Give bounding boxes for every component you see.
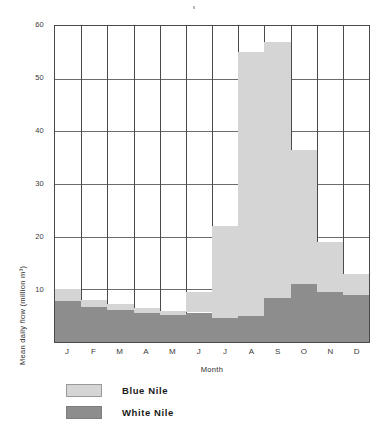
bar-segment-white-nile xyxy=(212,318,238,342)
bar-group-march[interactable] xyxy=(107,26,133,342)
bar-segment-white-nile xyxy=(160,315,186,342)
x-tick-label-august: A xyxy=(238,347,264,356)
chart-figure: 102030405060 Mean daily flow (million m³… xyxy=(0,0,390,435)
legend-swatch-white-nile xyxy=(66,406,102,419)
x-tick-label-february: F xyxy=(80,347,106,356)
bar-segment-white-nile xyxy=(264,298,290,342)
page-speck xyxy=(193,6,195,9)
y-tick-label-30: 30 xyxy=(0,179,44,188)
bar-segment-white-nile xyxy=(55,301,81,342)
bar-group-april[interactable] xyxy=(134,26,160,342)
bar-segment-blue-nile xyxy=(264,42,290,298)
bar-segment-white-nile xyxy=(134,313,160,342)
bar-segment-blue-nile xyxy=(55,289,81,301)
x-tick-label-april: A xyxy=(133,347,159,356)
x-tick-label-september: S xyxy=(265,347,291,356)
x-tick-label-march: M xyxy=(107,347,133,356)
x-tick-label-october: O xyxy=(291,347,317,356)
bar-segment-white-nile xyxy=(291,284,317,342)
bar-segment-blue-nile xyxy=(186,292,212,313)
bar-group-august[interactable] xyxy=(238,26,264,342)
y-tick-label-60: 60 xyxy=(0,20,44,29)
legend-item-blue-nile: Blue Nile xyxy=(66,384,174,397)
bar-segment-blue-nile xyxy=(107,304,133,311)
x-tick-label-december: D xyxy=(344,347,370,356)
y-tick-label-50: 50 xyxy=(0,73,44,82)
bar-segment-white-nile xyxy=(343,295,369,342)
x-tick-label-january: J xyxy=(54,347,80,356)
bar-group-february[interactable] xyxy=(81,26,107,342)
bar-segment-blue-nile xyxy=(343,274,369,295)
bar-segment-blue-nile xyxy=(212,226,238,318)
x-tick-label-may: M xyxy=(159,347,185,356)
bar-group-june[interactable] xyxy=(186,26,212,342)
x-axis-title: Month xyxy=(54,365,370,374)
bar-group-november[interactable] xyxy=(317,26,343,342)
bar-segment-white-nile xyxy=(317,292,343,342)
bar-group-december[interactable] xyxy=(343,26,369,342)
y-tick-label-40: 40 xyxy=(0,126,44,135)
bar-segment-blue-nile xyxy=(317,242,343,292)
bar-segment-white-nile xyxy=(238,316,264,342)
bar-segment-blue-nile xyxy=(291,150,317,284)
bar-group-may[interactable] xyxy=(160,26,186,342)
bar-series-group xyxy=(55,26,369,342)
bar-segment-white-nile xyxy=(186,313,212,342)
bar-segment-blue-nile xyxy=(238,52,264,315)
bar-segment-blue-nile xyxy=(81,300,107,307)
legend-label-blue-nile: Blue Nile xyxy=(122,385,168,396)
plot-area xyxy=(54,25,370,343)
bar-group-july[interactable] xyxy=(212,26,238,342)
x-tick-label-july: J xyxy=(212,347,238,356)
x-tick-label-june: J xyxy=(186,347,212,356)
chart-legend: Blue Nile White Nile xyxy=(66,384,174,428)
legend-item-white-nile: White Nile xyxy=(66,406,174,419)
y-axis-title: Mean daily flow (million m³) xyxy=(18,215,27,365)
bar-group-october[interactable] xyxy=(291,26,317,342)
bar-segment-white-nile xyxy=(81,307,107,342)
bar-group-september[interactable] xyxy=(264,26,290,342)
bar-group-january[interactable] xyxy=(55,26,81,342)
x-tick-label-november: N xyxy=(317,347,343,356)
bar-segment-white-nile xyxy=(107,310,133,342)
legend-label-white-nile: White Nile xyxy=(122,407,174,418)
legend-swatch-blue-nile xyxy=(66,384,102,397)
x-axis-ticks: JFMAMJJASOND xyxy=(54,347,370,356)
